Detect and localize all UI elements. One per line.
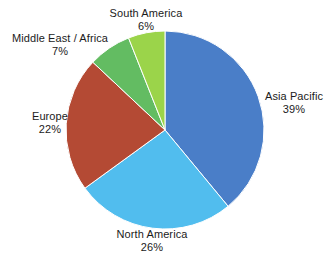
pie-label-north-america-value: 26% <box>100 241 204 254</box>
pie-label-north-america-name: North America <box>100 228 204 241</box>
pie-label-south-america-value: 6% <box>96 20 196 33</box>
pie-slice-group <box>66 31 264 229</box>
pie-chart: Asia Pacific 39% North America 26% Europ… <box>0 0 336 266</box>
pie-label-asia-pacific: Asia Pacific 39% <box>254 90 334 116</box>
pie-label-europe: Europe 22% <box>12 110 88 136</box>
pie-label-south-america-name: South America <box>96 7 196 20</box>
pie-label-middle-east-africa-name: Middle East / Africa <box>2 32 118 45</box>
pie-label-middle-east-africa: Middle East / Africa 7% <box>2 32 118 58</box>
pie-label-asia-pacific-name: Asia Pacific <box>254 90 334 103</box>
pie-label-asia-pacific-value: 39% <box>254 103 334 116</box>
pie-label-middle-east-africa-value: 7% <box>2 45 118 58</box>
pie-label-europe-value: 22% <box>12 123 88 136</box>
pie-label-south-america: South America 6% <box>96 7 196 33</box>
pie-label-north-america: North America 26% <box>100 228 204 254</box>
pie-label-europe-name: Europe <box>12 110 88 123</box>
